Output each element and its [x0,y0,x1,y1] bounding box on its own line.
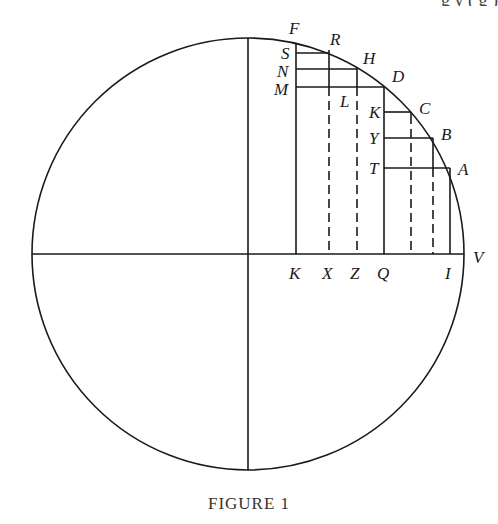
label-T: T [369,159,380,178]
label-R: R [329,30,341,49]
label-A: A [457,160,469,179]
label-B: B [441,125,452,144]
label-Z: Z [350,264,360,283]
label-D: D [391,67,405,86]
figure-caption: FIGURE 1 [208,494,290,513]
label-I: I [444,264,452,283]
label-L: L [339,92,349,111]
label-Q: Q [377,264,389,283]
label-M: M [273,80,289,99]
label-X: X [321,264,333,283]
label-N: N [276,62,290,81]
label-K-lower: K [288,264,302,283]
label-S: S [281,44,290,63]
label-V: V [473,248,486,267]
label-K-upper: K [368,103,382,122]
label-Y: Y [369,129,380,148]
figure-diagram: F R S H N D M L K C Y B T A V K X Z Q I … [0,0,498,524]
label-F: F [288,19,300,38]
label-C: C [419,99,431,118]
label-H: H [362,49,377,68]
